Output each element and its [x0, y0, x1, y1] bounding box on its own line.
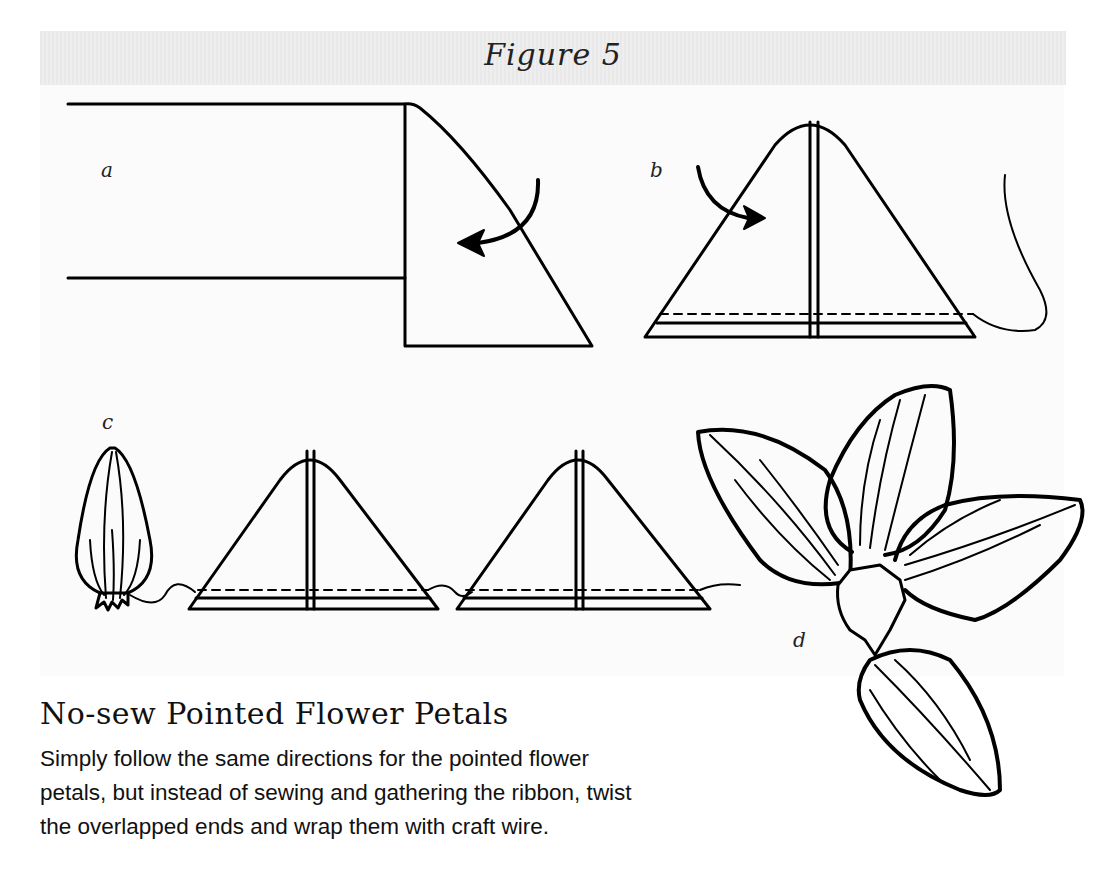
step-label-a: a	[101, 158, 113, 182]
article-body: Simply follow the same directions for th…	[40, 742, 720, 844]
step-label-b: b	[650, 158, 663, 182]
step-c-diagram	[76, 448, 740, 610]
step-d-diagram	[698, 386, 1083, 795]
body-line: the overlapped ends and wrap them with c…	[40, 810, 720, 844]
step-b-diagram	[645, 122, 1046, 337]
step-label-d: d	[793, 628, 806, 652]
step-a-diagram	[68, 104, 592, 346]
body-line: Simply follow the same directions for th…	[40, 742, 720, 776]
article-heading: No-sew Pointed Flower Petals	[40, 696, 509, 731]
step-label-c: c	[102, 410, 113, 434]
body-line: petals, but instead of sewing and gather…	[40, 776, 720, 810]
